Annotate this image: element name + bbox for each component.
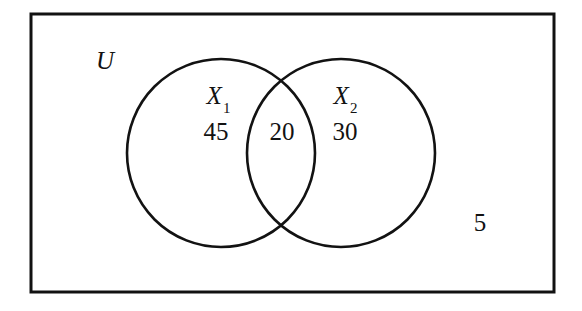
count-x2-only: 30	[333, 119, 358, 144]
set-label-x2: X2	[334, 83, 357, 113]
universal-set-label: U	[96, 48, 114, 73]
set-label-x1-subscript: 1	[223, 100, 231, 116]
set-label-x2-subscript: 2	[350, 100, 358, 116]
count-x1-only: 45	[204, 119, 229, 144]
set-label-x1: X1	[207, 83, 230, 113]
count-outside-both: 5	[474, 210, 487, 235]
venn-diagram-canvas	[0, 0, 582, 311]
venn-diagram-figure: U X1 X2 45 20 30 5	[0, 0, 582, 311]
count-intersection: 20	[270, 119, 295, 144]
set-label-x1-base: X	[207, 82, 222, 109]
set-label-x2-base: X	[334, 82, 349, 109]
